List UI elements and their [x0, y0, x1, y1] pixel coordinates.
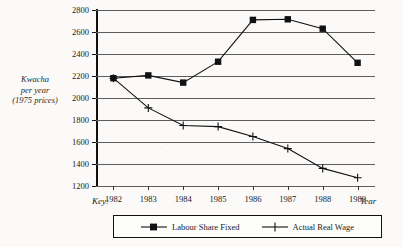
y-tick-label-2600: 2600 [72, 27, 89, 37]
data-point [179, 122, 187, 130]
data-point [180, 79, 186, 85]
data-point [145, 72, 151, 78]
y-tick-label-1400: 1400 [72, 159, 89, 169]
y-axis-title-line-2: per year [2, 85, 68, 96]
x-tick-label-1988: 1988 [314, 194, 331, 204]
square-marker-icon [141, 222, 167, 232]
data-point [319, 164, 327, 172]
y-tick-label-1600: 1600 [72, 137, 89, 147]
y-tick-label-2200: 2200 [72, 71, 89, 81]
legend-label-1: Actual Real Wage [293, 222, 354, 232]
y-tick-1200 [92, 186, 96, 187]
legend-item-labour-share-fixed: Labour Share Fixed [141, 222, 240, 232]
y-tick-label-2400: 2400 [72, 49, 89, 59]
x-tick-1988 [323, 186, 324, 190]
data-point [320, 26, 326, 32]
series-2 [109, 74, 361, 182]
x-tick-label-1987: 1987 [279, 194, 296, 204]
data-point [285, 16, 291, 22]
x-tick-label-1985: 1985 [210, 194, 227, 204]
legend-item-actual-real-wage: Actual Real Wage [262, 222, 354, 232]
series-1 [110, 16, 361, 86]
data-point [354, 60, 360, 66]
data-point [249, 133, 257, 141]
x-tick-1989 [358, 186, 359, 190]
chart-figure: Kwacha per year (1975 prices) 1200140016… [0, 0, 403, 247]
data-point [215, 59, 221, 65]
y-tick-label-2800: 2800 [72, 5, 89, 15]
data-point [284, 145, 292, 153]
x-tick-1983 [148, 186, 149, 190]
x-tick-1986 [253, 186, 254, 190]
y-axis-title: Kwacha per year (1975 prices) [2, 74, 68, 106]
legend-label-0: Labour Share Fixed [172, 222, 240, 232]
x-tick-label-1986: 1986 [244, 194, 261, 204]
gridline-1200 [96, 186, 375, 187]
key-label: Key: [92, 196, 109, 206]
x-tick-1987 [288, 186, 289, 190]
x-tick-label-1983: 1983 [140, 194, 157, 204]
y-tick-label-2000: 2000 [72, 93, 89, 103]
data-point [354, 174, 362, 182]
x-tick-1984 [183, 186, 184, 190]
series-line [113, 78, 357, 178]
series-layer [96, 10, 375, 186]
plot-area: 120014001600180020002200240026002800 198… [96, 10, 375, 186]
y-tick-label-1800: 1800 [72, 115, 89, 125]
y-axis-title-line-3: (1975 prices) [2, 95, 68, 106]
x-tick-1982 [113, 186, 114, 190]
y-axis-title-line-1: Kwacha [2, 74, 68, 85]
x-tick-1985 [218, 186, 219, 190]
y-tick-label-1200: 1200 [72, 181, 89, 191]
data-point [250, 17, 256, 23]
legend: Labour Share Fixed Actual Real Wage [113, 215, 382, 238]
x-tick-label-1984: 1984 [175, 194, 192, 204]
data-point [214, 123, 222, 131]
x-axis-title: Year [360, 196, 376, 206]
plus-marker-icon [262, 222, 288, 232]
